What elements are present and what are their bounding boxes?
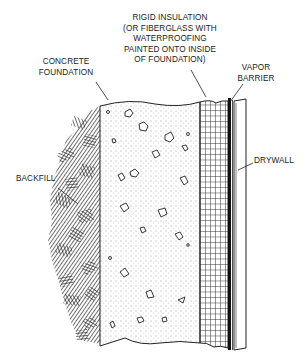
label-backfill: BACKFILL	[16, 174, 55, 185]
concrete-foundation-region	[100, 101, 200, 346]
drywall-region	[234, 99, 246, 350]
label-drywall: DRYWALL	[254, 156, 294, 167]
label-concrete-foundation: CONCRETE FOUNDATION	[38, 57, 94, 78]
label-rigid-insulation: RIGID INSULATION (OR FIBERGLASS WITH WAT…	[120, 13, 220, 66]
leader-concrete	[96, 82, 108, 100]
backfill-region	[48, 106, 100, 344]
rigid-insulation-region	[200, 101, 228, 348]
leader-vapor	[230, 84, 243, 102]
leader-insulation	[191, 70, 206, 97]
label-vapor-barrier: VAPOR BARRIER	[236, 63, 276, 84]
vapor-barrier-region	[228, 98, 233, 350]
